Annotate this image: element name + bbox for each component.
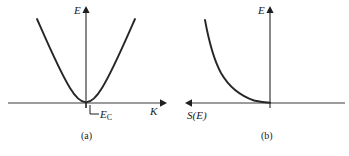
panel-a-y-axis-arrowhead xyxy=(82,6,89,13)
panel-a-caption: (a) xyxy=(81,131,92,141)
ec-subscript: C xyxy=(107,113,112,122)
panel-a-ec-leader-line xyxy=(90,105,99,114)
ec-base-symbol: E xyxy=(100,108,107,120)
panel-a-x-axis-arrowhead xyxy=(160,99,167,106)
figure-container: E K EC (a) E S(E) (b) xyxy=(0,0,349,156)
panel-a-conduction-band-edge-label: EC xyxy=(100,109,112,120)
figure-canvas xyxy=(0,0,349,156)
panel-b-x-axis-arrowhead xyxy=(185,99,192,106)
panel-a-x-axis-label: K xyxy=(150,106,157,117)
panel-b-group xyxy=(185,6,345,108)
panel-a-y-axis-label: E xyxy=(74,5,81,16)
panel-b-x-axis-label: S(E) xyxy=(187,110,207,121)
panel-b-y-axis-arrowhead xyxy=(266,6,273,13)
panel-b-y-axis-label: E xyxy=(258,5,265,16)
panel-b-caption: (b) xyxy=(261,131,273,141)
panel-b-decay-curve xyxy=(205,20,270,103)
panel-a-group xyxy=(8,6,167,114)
